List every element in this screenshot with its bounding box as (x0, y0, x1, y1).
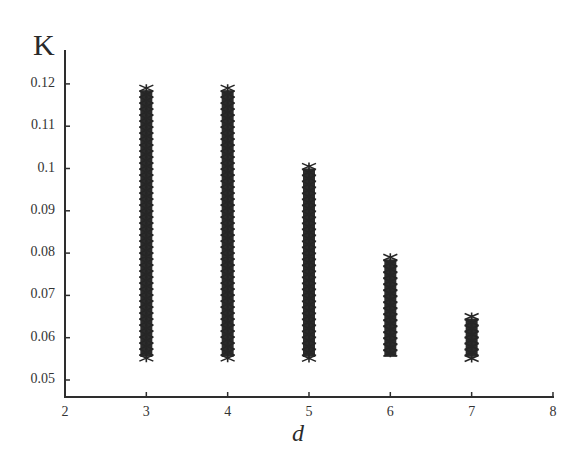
data-column-d7 (465, 313, 479, 363)
y-tick-label: 0.12 (31, 75, 56, 91)
x-tick-label: 5 (299, 404, 319, 420)
data-column-d4 (221, 84, 235, 362)
asterisk-marker (465, 355, 479, 363)
data-column-d3 (139, 84, 153, 362)
asterisk-marker (139, 354, 153, 362)
y-axis-label: K (33, 28, 55, 62)
y-tick-label: 0.08 (31, 244, 56, 260)
data-column-d6 (383, 253, 397, 357)
y-tick-label: 0.09 (31, 202, 56, 218)
x-tick-label: 8 (543, 404, 563, 420)
y-tick-label: 0.05 (31, 371, 56, 387)
data-column-d5 (302, 162, 316, 362)
y-tick-label: 0.11 (31, 117, 55, 133)
y-tick-label: 0.07 (31, 286, 56, 302)
x-tick-label: 3 (136, 404, 156, 420)
chart-plot-area (0, 0, 579, 466)
asterisk-marker (302, 354, 316, 362)
y-tick-label: 0.1 (38, 160, 56, 176)
y-tick-label: 0.06 (31, 329, 56, 345)
x-axis-label: d (292, 420, 304, 447)
x-tick-label: 4 (218, 404, 238, 420)
x-tick-label: 6 (380, 404, 400, 420)
x-tick-label: 2 (55, 404, 75, 420)
asterisk-marker (221, 354, 235, 362)
data-columns (139, 84, 478, 362)
x-tick-label: 7 (462, 404, 482, 420)
